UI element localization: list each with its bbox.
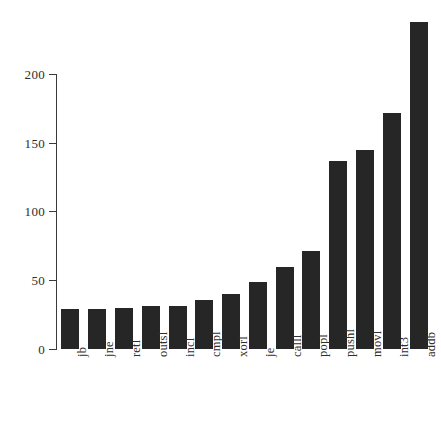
x-tick-label: xorl	[236, 336, 251, 357]
x-tick-label: pushl	[343, 329, 358, 357]
x-tick-label: outsl	[156, 332, 171, 357]
y-tick-label-200: 200	[1, 68, 45, 81]
y-tick-0	[49, 349, 56, 350]
bar	[61, 309, 79, 349]
y-axis-tick-labels: 0 50 100 150 200	[0, 0, 45, 421]
x-tick-label: popl	[316, 334, 331, 357]
y-tick-150	[49, 143, 56, 144]
x-tick-label: movl	[370, 331, 385, 358]
bar	[356, 150, 374, 349]
x-tick-label: retl	[129, 340, 144, 357]
x-tick-label: je	[263, 348, 278, 357]
bar	[329, 161, 347, 349]
bar	[383, 113, 401, 350]
bar	[249, 282, 267, 349]
x-tick-label: incl	[183, 337, 198, 357]
y-tick-label-0: 0	[1, 343, 45, 356]
y-tick-100	[49, 211, 56, 212]
y-tick-label-150: 150	[1, 137, 45, 150]
x-tick-label: jb	[75, 347, 90, 357]
y-tick-label-100: 100	[1, 205, 45, 218]
x-tick-label: cmpl	[209, 331, 224, 357]
x-tick-label: addb	[424, 332, 439, 357]
x-tick-label: int3	[397, 337, 412, 357]
bar-chart: 0 50 100 150 200 jbjneretloutslinclcmplx…	[0, 0, 441, 421]
bar	[410, 22, 428, 349]
x-axis-tick-labels: jbjneretloutslinclcmplxorljecalllpoplpus…	[57, 349, 432, 421]
y-tick-50	[49, 280, 56, 281]
x-tick-label: jne	[102, 341, 117, 357]
y-tick-200	[49, 74, 56, 75]
y-tick-label-50: 50	[1, 274, 45, 287]
x-tick-label: calll	[290, 334, 305, 357]
